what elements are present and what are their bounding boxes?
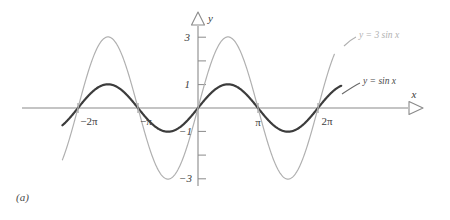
- figure-canvas: y x 3 1 −1 −3 −2π −π π 2π y = 3 sin x y …: [0, 0, 450, 220]
- sine-curves-figure: y x 3 1 −1 −3 −2π −π π 2π y = 3 sin x y …: [0, 0, 450, 220]
- x-tick-label-pi: π: [255, 116, 261, 128]
- y-axis-arrowhead: [192, 12, 205, 25]
- y-tick-label-neg1: −1: [179, 125, 192, 137]
- y-tick-label-neg3: −3: [179, 172, 192, 184]
- figure-caption: (a): [16, 191, 29, 204]
- x-axis-arrowhead: [409, 102, 423, 115]
- curve-label-3sinx: y = 3 sin x: [358, 30, 400, 40]
- curve-label-sinx: y = sin x: [362, 76, 397, 86]
- y-tick-label-1: 1: [185, 78, 191, 90]
- y-tick-label-3: 3: [184, 31, 191, 43]
- leader-line-scaled-curve: [344, 37, 356, 46]
- y-axis-label: y: [207, 12, 213, 24]
- x-tick-label-2pi: 2π: [321, 115, 333, 127]
- leader-line-base-curve: [342, 83, 360, 94]
- x-axis-label: x: [411, 88, 417, 100]
- x-tick-label-neg2pi: −2π: [80, 115, 98, 127]
- x-tick-label-negpi: −π: [140, 115, 152, 127]
